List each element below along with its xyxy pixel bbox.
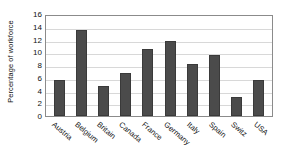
y-axis-title-text: Percentage of workforce <box>6 20 15 102</box>
x-axis-tick-label: Britain <box>92 118 114 168</box>
y-axis-tick-label: 8 <box>38 62 42 70</box>
x-axis-tick-label: Canada <box>114 118 136 168</box>
bar <box>120 73 131 116</box>
bar-series <box>46 16 272 116</box>
bar-slot <box>181 16 203 116</box>
x-axis-tick-label: Italy <box>181 118 203 168</box>
x-axis-tick-label: Austria <box>47 118 69 168</box>
bar <box>231 97 242 116</box>
x-axis-tick-label: Switz <box>226 118 248 168</box>
y-axis-tick-label: 12 <box>33 37 42 45</box>
x-axis-tick-label: France <box>137 118 159 168</box>
x-axis-tick-label: Germany <box>159 118 181 168</box>
y-axis-tick-label: 2 <box>38 100 42 108</box>
bar <box>142 49 153 116</box>
y-axis-tick-label: 10 <box>33 49 42 57</box>
bar <box>76 30 87 116</box>
bar-slot <box>137 16 159 116</box>
bar-slot <box>248 16 270 116</box>
y-axis-tick-label: 14 <box>33 24 42 32</box>
bar-slot <box>226 16 248 116</box>
x-axis-tick-label: Belgium <box>69 118 91 168</box>
bar <box>54 80 65 116</box>
x-axis-tick-label: Spain <box>204 118 226 168</box>
bar-chart: Percentage of workforce 0246810121416 Au… <box>0 0 290 168</box>
bar-slot <box>159 16 181 116</box>
y-axis-tick-labels: 0246810121416 <box>18 11 44 121</box>
x-axis-tick-label: USA <box>249 118 271 168</box>
bar <box>209 55 220 116</box>
bar <box>187 64 198 116</box>
bar-slot <box>48 16 70 116</box>
x-axis-tick-labels: AustriaBelgiumBritainCanadaFranceGermany… <box>45 118 273 168</box>
y-axis-tick-label: 0 <box>38 113 42 121</box>
x-axis-tick-label-text: USA <box>252 120 270 137</box>
bar-slot <box>203 16 225 116</box>
bar <box>98 86 109 116</box>
x-axis-tick-label-text: Switz <box>230 120 250 139</box>
x-axis-tick-label-text: Italy <box>185 120 201 136</box>
bar-slot <box>92 16 114 116</box>
y-axis-title: Percentage of workforce <box>0 0 20 122</box>
x-axis-tick-label-text: Spain <box>207 120 228 139</box>
bar <box>165 41 176 116</box>
y-axis-tick-label: 16 <box>33 11 42 19</box>
bar <box>253 80 264 116</box>
y-axis-tick-label: 4 <box>38 88 42 96</box>
bar-slot <box>70 16 92 116</box>
y-axis-tick-label: 6 <box>38 75 42 83</box>
plot-area <box>45 15 273 117</box>
bar-slot <box>115 16 137 116</box>
